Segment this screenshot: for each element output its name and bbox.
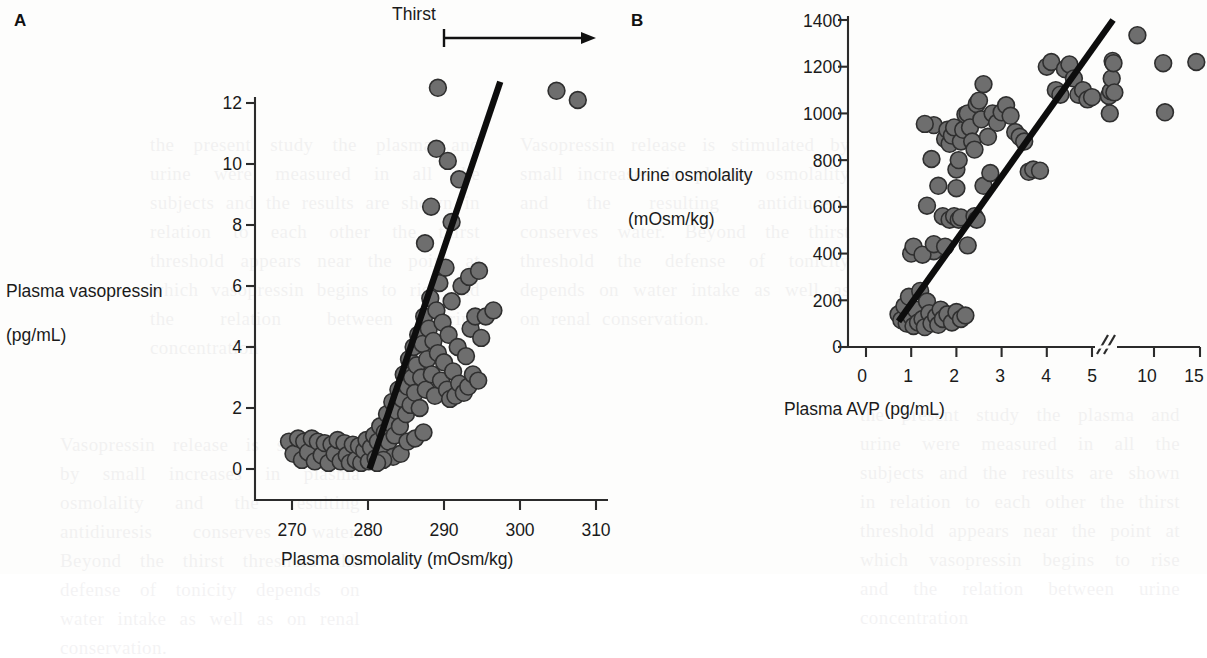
data-point	[1002, 107, 1019, 124]
data-point	[470, 372, 487, 389]
data-point	[1155, 55, 1172, 72]
data-point	[430, 79, 447, 96]
data-point	[548, 82, 565, 99]
data-point	[930, 177, 947, 194]
data-point	[473, 330, 490, 347]
data-point	[423, 198, 440, 215]
panel-a: A Thirst Plasma vasopressin (pg/mL) Plas…	[0, 0, 620, 574]
data-point	[569, 92, 586, 109]
panel-a-plot-canvas	[0, 0, 620, 574]
thirst-arrow-head	[581, 32, 596, 44]
panel-b-plot-canvas	[620, 0, 1207, 574]
panel-b-regression-line	[899, 20, 1114, 321]
data-point	[1032, 162, 1049, 179]
data-point	[966, 141, 983, 158]
panel-b: B Urine osmolality (mOsm/kg) Plasma AVP …	[620, 0, 1207, 574]
data-point	[950, 152, 967, 169]
data-point	[971, 92, 988, 109]
panel-b-data-points	[890, 27, 1205, 336]
data-point	[1101, 105, 1118, 122]
data-point	[1129, 27, 1146, 44]
data-point	[417, 235, 434, 252]
data-point	[439, 153, 456, 170]
data-point	[1105, 55, 1122, 72]
data-point	[957, 307, 974, 324]
data-point	[1157, 104, 1174, 121]
data-point	[443, 293, 460, 310]
data-point	[959, 237, 976, 254]
data-point	[471, 262, 488, 279]
data-point	[415, 424, 432, 441]
data-point	[975, 76, 992, 93]
data-point	[948, 180, 965, 197]
data-point	[485, 302, 502, 319]
data-point	[458, 348, 475, 365]
data-point	[411, 400, 428, 417]
data-point	[1188, 54, 1205, 71]
data-point	[916, 116, 933, 133]
data-point	[1084, 89, 1101, 106]
data-point	[919, 197, 936, 214]
data-point	[1106, 84, 1123, 101]
data-point	[923, 151, 940, 168]
